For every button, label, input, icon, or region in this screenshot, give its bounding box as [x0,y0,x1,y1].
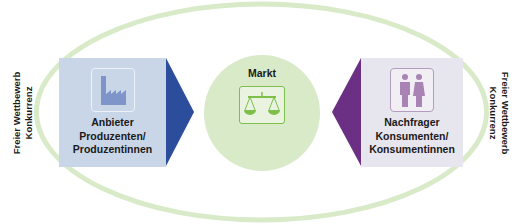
competition-label-line: Konkurrenz [23,86,35,139]
market-title: Markt [248,67,276,79]
competition-label-left: Freier Wettbewerb Konkurrenz [8,50,38,175]
consumers-label-line: Nachfrager [369,116,455,130]
competition-label-line: Konkurrenz [487,86,499,139]
supply-arrow-right [166,58,194,166]
consumers-label-line: Konsumenten/ [369,130,455,144]
demand-arrow-left [332,58,361,166]
scale-icon-frame [239,86,285,124]
factory-icon [95,72,131,108]
competition-label-line: Freier Wettbewerb [499,71,511,154]
competition-label-right: Freier Wettbewerb Konkurrenz [484,50,514,175]
suppliers-box: Anbieter Produzenten/ Produzentinnen [59,58,166,167]
suppliers-label-line: Produzentinnen [73,143,152,157]
consumers-box: Nachfrager Konsumenten/ Konsumentinnen [361,58,463,167]
scale-icon [242,89,282,121]
people-icon [394,71,430,109]
competition-label-line: Freier Wettbewerb [11,71,23,154]
suppliers-label-line: Produzenten/ [73,130,152,144]
consumers-label: Nachfrager Konsumenten/ Konsumentinnen [369,116,455,157]
market-diagram: Freier Wettbewerb Konkurrenz Anbieter Pr… [0,0,523,224]
factory-icon-frame [91,68,135,112]
consumers-label-line: Konsumentinnen [369,143,455,157]
market-circle: Markt [204,55,320,171]
people-icon-frame [390,68,434,112]
suppliers-label: Anbieter Produzenten/ Produzentinnen [73,116,152,157]
suppliers-label-line: Anbieter [73,116,152,130]
